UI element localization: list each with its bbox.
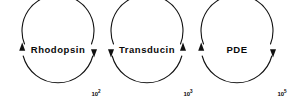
gain-label-3-base: 10 [277, 91, 284, 97]
cycle-label-transducin: Transducin [119, 45, 175, 55]
gain-label-rhodopsin-to-transducin: 102 [91, 91, 100, 97]
cycle-rhodopsin [19, 0, 97, 83]
cycle-rhodopsin-arc-lower [23, 56, 93, 83]
cycle-label-rhodopsin: Rhodopsin [31, 45, 86, 55]
cycle-pde-arc [201, 0, 273, 44]
cycle-pde-right-arrowhead-down [270, 49, 276, 57]
gain-label-pde-output: 105 [277, 91, 286, 97]
amplification-cascade-figure: Rhodopsin Transducin PDE 102 103 105 [0, 0, 300, 106]
cycle-rhodopsin-right-arrowhead-down [91, 49, 97, 57]
cycle-transducin-arc-lower [112, 56, 182, 83]
gain-label-2-exponent: 3 [190, 89, 193, 94]
cycle-pde-arc-lower [202, 56, 272, 83]
cycle-transducin-left-arrowhead-down [108, 49, 114, 57]
gain-label-3-exponent: 5 [284, 89, 287, 94]
gain-label-2-base: 10 [183, 91, 190, 97]
gain-label-transducin-to-pde: 103 [183, 91, 192, 97]
cycle-rhodopsin-arc [22, 0, 94, 44]
gain-label-1-exponent: 2 [98, 89, 101, 94]
gain-label-1-base: 10 [91, 91, 98, 97]
cycle-label-pde: PDE [226, 45, 247, 55]
cycle-transducin [108, 0, 186, 83]
cycle-pde [198, 0, 276, 83]
cycle-transducin-arc [111, 0, 183, 44]
